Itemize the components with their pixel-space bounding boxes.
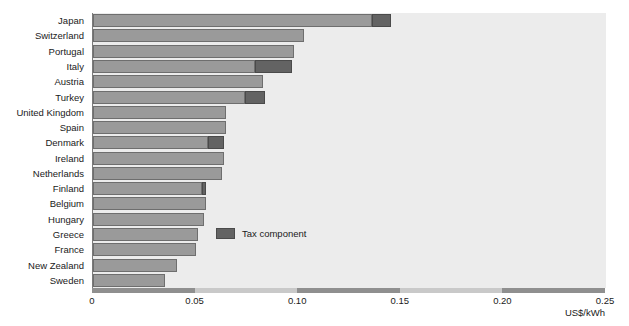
category-label: France xyxy=(54,244,84,255)
bar-row xyxy=(93,243,196,256)
bar-chart: JapanSwitzerlandPortugalItalyAustriaTurk… xyxy=(0,0,629,326)
bar-row xyxy=(93,14,391,27)
bar-segment-base xyxy=(93,106,226,119)
bar-segment-base xyxy=(93,29,304,42)
x-axis-track xyxy=(92,288,605,293)
bar-segment-tax xyxy=(245,91,266,104)
bar-row xyxy=(93,274,165,287)
bar-segment-base xyxy=(93,197,206,210)
category-label: Belgium xyxy=(50,198,84,209)
category-label: Switzerland xyxy=(35,30,84,41)
x-axis-unit-label: US$/kWh xyxy=(565,307,605,318)
bar-row xyxy=(93,106,226,119)
category-axis-labels: JapanSwitzerlandPortugalItalyAustriaTurk… xyxy=(0,13,88,288)
bar-segment-base xyxy=(93,259,177,272)
bar-row xyxy=(93,75,263,88)
category-label: Denmark xyxy=(45,137,84,148)
bar-row xyxy=(93,91,265,104)
bar-row xyxy=(93,29,304,42)
category-label: Sweden xyxy=(50,275,84,286)
x-axis-tick-label: 0.10 xyxy=(288,295,307,306)
bar-segment-base xyxy=(93,243,196,256)
category-label: Greece xyxy=(53,229,84,240)
category-label: Turkey xyxy=(55,92,84,103)
bar-row xyxy=(93,182,206,195)
bar-segment-base xyxy=(93,14,372,27)
bar-segment-base xyxy=(93,60,255,73)
category-label: New Zealand xyxy=(28,260,84,271)
category-label: United Kingdom xyxy=(16,107,84,118)
bar-segment-base xyxy=(93,121,226,134)
category-label: Japan xyxy=(58,15,84,26)
bar-segment-base xyxy=(93,274,165,287)
category-label: Hungary xyxy=(48,214,84,225)
bar-row xyxy=(93,167,222,180)
bar-segment-base xyxy=(93,228,198,241)
category-label: Finland xyxy=(53,183,84,194)
bar-segment-base xyxy=(93,136,208,149)
category-label: Netherlands xyxy=(33,168,84,179)
x-axis-tick-label: 0.15 xyxy=(391,295,410,306)
category-label: Spain xyxy=(60,122,84,133)
bar-segment-base xyxy=(93,91,245,104)
bar-row xyxy=(93,121,226,134)
bar-segment-tax xyxy=(208,136,224,149)
x-axis-segment xyxy=(92,288,195,293)
x-axis-segment xyxy=(502,288,605,293)
bar-segment-base xyxy=(93,45,294,58)
bar-row xyxy=(93,228,198,241)
category-label: Italy xyxy=(67,61,84,72)
x-axis-tick-label: 0.25 xyxy=(596,295,615,306)
legend-swatch-tax-component xyxy=(216,228,235,239)
bar-segment-base xyxy=(93,167,222,180)
bar-row xyxy=(93,259,177,272)
legend-label-tax-component: Tax component xyxy=(242,228,306,239)
category-label: Austria xyxy=(54,76,84,87)
plot-area xyxy=(92,13,606,288)
x-axis-tick-label: 0 xyxy=(89,295,94,306)
category-label: Ireland xyxy=(55,153,84,164)
bar-segment-base xyxy=(93,213,204,226)
bar-segment-tax xyxy=(255,60,292,73)
bar-row xyxy=(93,45,294,58)
x-axis-segment xyxy=(297,288,400,293)
bar-row xyxy=(93,60,292,73)
bar-segment-base xyxy=(93,152,224,165)
bar-segment-tax xyxy=(202,182,206,195)
chart-legend: Tax component xyxy=(216,228,306,239)
bar-row xyxy=(93,213,204,226)
bar-row xyxy=(93,197,206,210)
category-label: Portugal xyxy=(49,46,84,57)
x-axis-tick-label: 0.05 xyxy=(185,295,204,306)
bar-segment-tax xyxy=(372,14,390,27)
x-axis-tick-label: 0.20 xyxy=(493,295,512,306)
bar-row xyxy=(93,136,224,149)
bar-row xyxy=(93,152,224,165)
bar-segment-base xyxy=(93,75,263,88)
bar-segment-base xyxy=(93,182,202,195)
